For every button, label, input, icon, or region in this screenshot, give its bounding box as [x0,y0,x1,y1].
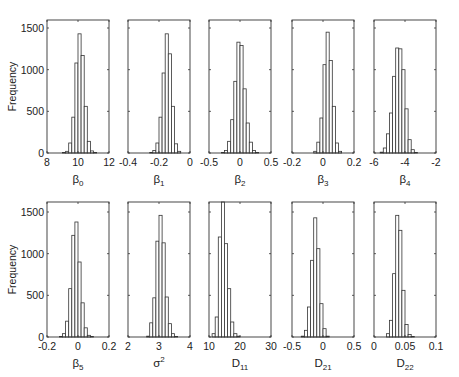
histogram-bar [168,324,171,337]
y-tick-label: 1000 [21,64,45,76]
histogram-bar [156,241,159,337]
histogram-bar [402,70,405,153]
x-axis-label: β2 [234,173,246,188]
histogram-bars [150,34,181,153]
x-tick-label: 3 [156,340,162,352]
histogram-bar [399,49,402,153]
histogram-bars [221,42,258,153]
histogram-panel-β5: -0.200.2050010001500β5Frequency [6,202,116,372]
x-tick-label: -6 [369,156,378,168]
histogram-bar [153,298,156,337]
histogram-panel-σ2: 234σ2 [125,202,193,369]
histogram-panel-β2: -0.500.5β2 [200,20,278,188]
x-tick-label: 0.2 [347,156,362,168]
histogram-bar [81,303,84,337]
histogram-bar [320,118,323,153]
histogram-bar [326,32,329,153]
histogram-bar [408,140,411,153]
histogram-panel-d22: 00.050.1D22 [371,202,443,372]
histogram-bar [234,334,237,337]
histogram-bars [59,222,93,337]
histogram-bar [84,106,87,153]
x-tick-label: 8 [44,156,50,168]
histogram-bar [215,317,218,337]
x-tick-label: 0 [320,340,326,352]
histogram-bars [380,48,417,153]
histogram-bar [240,46,243,154]
x-axis-label: D21 [314,357,332,372]
y-axis-label: Frequency [6,244,18,294]
histogram-bars [63,34,97,153]
histogram-bar [171,334,174,337]
histogram-panel-d11: 102030D11 [203,202,277,372]
histogram-bar [396,48,399,153]
histogram-bars [212,202,240,337]
histogram-bar [323,329,326,337]
histogram-bar [81,56,84,154]
histogram-bar [311,260,314,337]
histogram-bar [63,334,66,337]
histogram-bar [308,307,311,337]
histogram-bar [221,202,224,337]
histogram-bar [218,237,221,337]
x-tick-label: 0 [320,156,326,168]
x-tick-label: 4 [187,340,193,352]
x-axis-label: σ2 [153,355,165,369]
histogram-bar [231,322,234,337]
histogram-bars [147,215,178,337]
x-axis-label: β0 [72,173,84,188]
histogram-bar [165,34,168,153]
histogram-bar [402,290,405,337]
histogram-bar [159,117,162,153]
histogram-bar [329,61,332,154]
histogram-bar [304,330,307,337]
x-axis-label: β1 [153,173,165,188]
histogram-bar [84,328,87,337]
x-tick-label: -0.2 [150,156,168,168]
histogram-bar [386,134,389,153]
histogram-bar [314,218,317,337]
histogram-bar [159,215,162,337]
histogram-bar [393,274,396,337]
histogram-panel-β3: -0.200.2β3 [283,20,361,188]
histogram-bar [162,73,165,153]
x-axis-label: D22 [396,357,414,372]
histogram-bar [156,143,159,153]
histogram-bar [228,141,231,153]
histogram-bar [393,76,396,153]
histogram-bar [383,148,386,153]
x-tick-label: 0 [371,340,377,352]
y-tick-label: 500 [26,105,44,117]
y-tick-label: 0 [38,331,44,343]
histogram-bar [225,244,228,337]
histogram-bar [390,320,393,337]
x-tick-label: 0 [187,156,193,168]
x-tick-label: 0 [237,156,243,168]
histogram-bar [162,243,165,337]
histogram-bar [165,297,168,337]
histogram-bar [72,235,75,337]
histogram-bar [69,143,72,153]
y-tick-label: 1500 [21,206,45,218]
histogram-panel-β0: 81012050010001500β0Frequency [6,20,115,188]
histogram-bar [399,230,402,337]
histogram-bar [243,89,246,153]
histogram-bar [411,150,414,153]
histogram-bars [386,215,414,337]
histogram-bar [150,323,153,337]
x-tick-label: 0.05 [395,340,416,352]
x-tick-label: 0.5 [347,340,362,352]
x-tick-label: 0.1 [429,340,444,352]
histogram-bar [320,304,323,337]
x-tick-label: -0.5 [283,340,301,352]
y-tick-label: 1500 [21,22,45,34]
x-tick-label: -0.2 [283,156,301,168]
histogram-bar [168,54,171,153]
y-tick-label: 0 [38,147,44,159]
histogram-bar [386,334,389,337]
histogram-bar [249,142,252,153]
x-tick-label: -0.4 [119,156,137,168]
x-tick-label: 12 [103,156,115,168]
x-tick-label: 30 [265,340,277,352]
x-tick-label: 0.2 [102,340,117,352]
